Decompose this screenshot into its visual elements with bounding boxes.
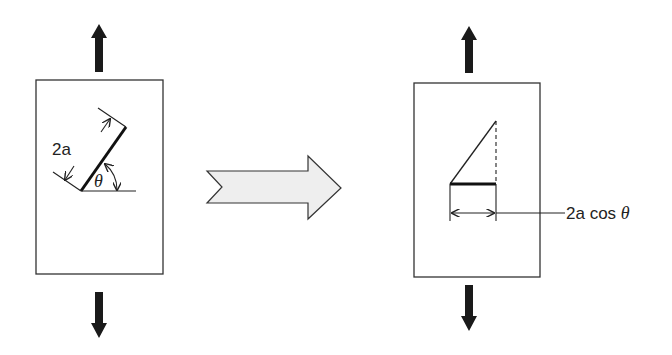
tension-down-arrow-icon: [461, 285, 477, 331]
left-panel: 2a θ: [36, 24, 163, 338]
plate-outline: [414, 83, 540, 277]
dimension-extension-bottom: [53, 172, 81, 191]
tension-down-arrow-icon: [91, 292, 107, 338]
dimension-arrow-bottom-icon: [65, 166, 74, 180]
crack-length-label: 2a: [52, 140, 71, 159]
inclined-crack: [81, 127, 126, 191]
dimension-arrow-top-icon: [101, 119, 110, 132]
dimension-extension-top: [98, 108, 126, 127]
angle-label: θ: [94, 171, 103, 191]
projected-length-label: 2a cos θ: [566, 203, 630, 223]
diagram-canvas: 2a θ 2a cos θ: [0, 0, 672, 355]
tension-up-arrow-icon: [91, 24, 107, 72]
tension-up-arrow-icon: [461, 26, 477, 73]
original-crack: [450, 121, 496, 184]
angle-arc: [105, 164, 117, 190]
right-panel: 2a cos θ: [414, 26, 630, 331]
transition-arrow-icon: [207, 156, 341, 219]
